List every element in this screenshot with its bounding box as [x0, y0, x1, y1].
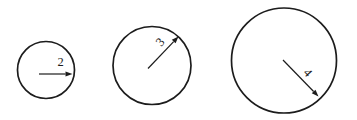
circle-radius-2	[18, 42, 75, 99]
circles-diagram: 234	[0, 0, 357, 120]
circle-radius-3	[113, 27, 191, 105]
radius-arrowhead-2	[66, 71, 73, 76]
circles-figure: 234	[0, 0, 357, 120]
radius-label-2: 2	[57, 55, 63, 69]
radius-label-4: 4	[301, 66, 316, 81]
radius-label-3: 3	[153, 35, 168, 49]
